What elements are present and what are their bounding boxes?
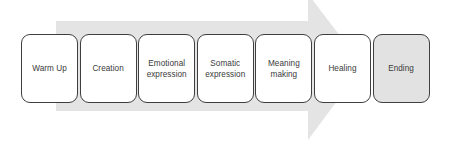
diagram-canvas: Warm Up Creation Emotional expression So… [0, 0, 452, 151]
stage-box-ending[interactable]: Ending [373, 34, 430, 103]
stage-box-warm-up[interactable]: Warm Up [21, 34, 78, 103]
stage-label-ending: Ending [388, 63, 414, 74]
stage-box-row: Warm Up Creation Emotional expression So… [21, 34, 431, 103]
stage-label-creation: Creation [92, 63, 123, 74]
stage-label-meaning-making: Meaning making [268, 58, 300, 80]
stage-box-somatic-expression[interactable]: Somatic expression [197, 34, 254, 103]
stage-box-emotional-expression[interactable]: Emotional expression [138, 34, 195, 103]
stage-box-meaning-making[interactable]: Meaning making [255, 34, 312, 103]
stage-label-emotional-expression: Emotional expression [147, 58, 187, 80]
stage-box-creation[interactable]: Creation [80, 34, 137, 103]
stage-label-warm-up: Warm Up [32, 63, 67, 74]
stage-label-somatic-expression: Somatic expression [205, 58, 245, 80]
stage-box-healing[interactable]: Healing [314, 34, 371, 103]
stage-label-healing: Healing [328, 63, 356, 74]
